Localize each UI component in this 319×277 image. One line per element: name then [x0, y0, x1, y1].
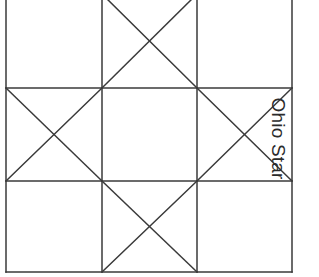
block-caption-label: Ohio Star: [268, 97, 290, 179]
block-caption: Ohio Star: [265, 0, 292, 277]
quilt-block-figure: Ohio Star: [0, 0, 319, 277]
block-line-group: [6, 0, 292, 272]
